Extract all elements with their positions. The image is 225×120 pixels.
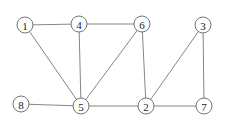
node-label: 4 [76,19,82,31]
node-1: 1 [17,17,33,33]
node-label: 7 [201,101,207,113]
node-label: 2 [143,101,149,113]
node-2: 2 [138,98,154,114]
graph-diagram: 14638527 [0,0,225,120]
edge-6-2 [142,24,146,106]
edge-6-5 [81,24,142,106]
node-6: 6 [134,16,150,32]
node-4: 4 [71,16,87,32]
node-3: 3 [195,17,211,33]
node-label: 8 [18,99,24,111]
edges [21,24,204,106]
nodes: 14638527 [13,16,212,114]
edge-3-7 [203,25,204,106]
node-label: 6 [139,19,145,31]
edge-8-5 [21,104,81,106]
node-label: 3 [200,20,206,32]
edge-1-5 [25,25,81,106]
edge-3-2 [146,25,203,106]
node-8: 8 [13,96,29,112]
node-7: 7 [196,98,212,114]
node-5: 5 [73,98,89,114]
edge-4-5 [79,24,81,106]
node-label: 1 [22,20,28,32]
node-label: 5 [78,101,84,113]
